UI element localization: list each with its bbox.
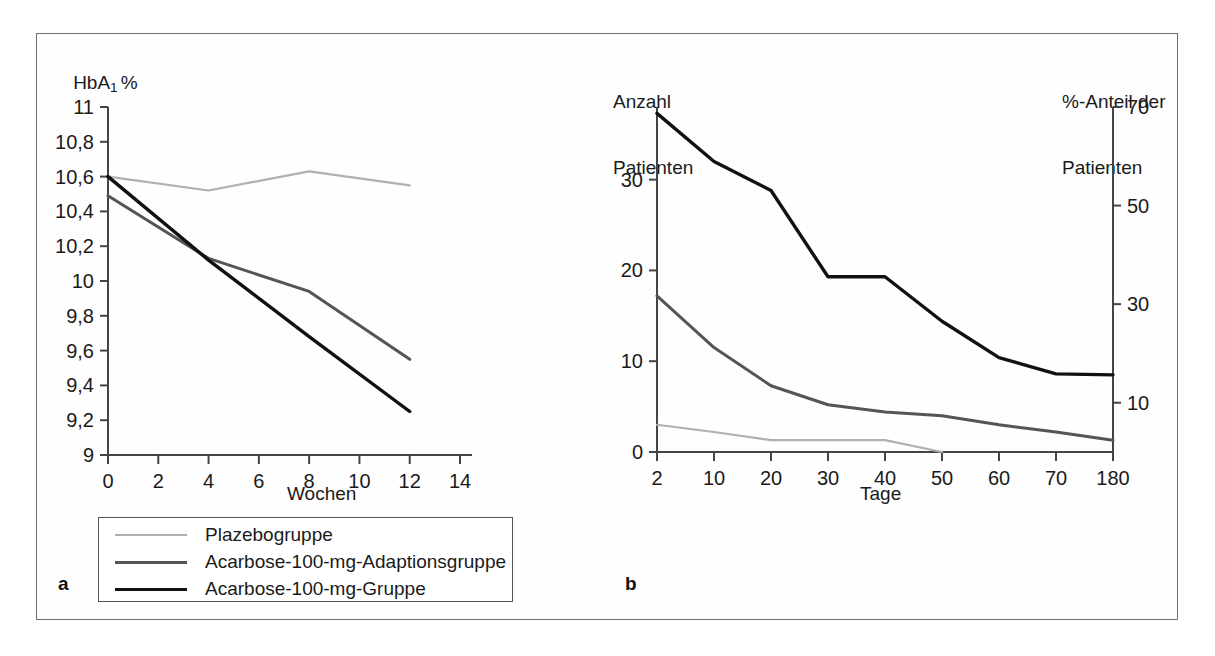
panel-b-right-y-tick-label: 70 <box>1127 96 1149 118</box>
panel-b-x-tick-label: 2 <box>651 467 662 489</box>
panel-b-right-y-tick-label: 10 <box>1127 392 1149 414</box>
panel-b-label: b <box>625 573 637 595</box>
panel-b-left-y-tick-label: 10 <box>621 350 643 372</box>
panel-b-x-tick-label: 20 <box>760 467 782 489</box>
panel-b-left-y-tick-label: 20 <box>621 259 643 281</box>
panel-b-x-axis-title: Tage <box>860 483 901 505</box>
panel-b-x-tick-label: 50 <box>931 467 953 489</box>
panel-b-right-y-tick-label: 50 <box>1127 195 1149 217</box>
panel-b-series-line <box>657 425 942 452</box>
figure-root: HbA1% 99,29,49,69,81010,210,410,610,8110… <box>0 0 1215 656</box>
panel-b-x-tick-label: 30 <box>817 467 839 489</box>
panel-b-right-y-tick-label: 30 <box>1127 293 1149 315</box>
panel-b-x-tick-label: 70 <box>1045 467 1067 489</box>
panel-b-x-tick-label: 180 <box>1096 467 1129 489</box>
panel-b-series-line <box>657 296 1113 440</box>
panel-b-left-y-tick-label: 0 <box>632 441 643 463</box>
panel-b-x-tick-label: 10 <box>703 467 725 489</box>
panel-b-left-y-tick-label: 30 <box>621 169 643 191</box>
panel-b-series-line <box>657 113 1113 374</box>
panel-b-plot: 010203010305070210203040506070180 <box>0 0 1215 656</box>
panel-b-x-tick-label: 60 <box>988 467 1010 489</box>
